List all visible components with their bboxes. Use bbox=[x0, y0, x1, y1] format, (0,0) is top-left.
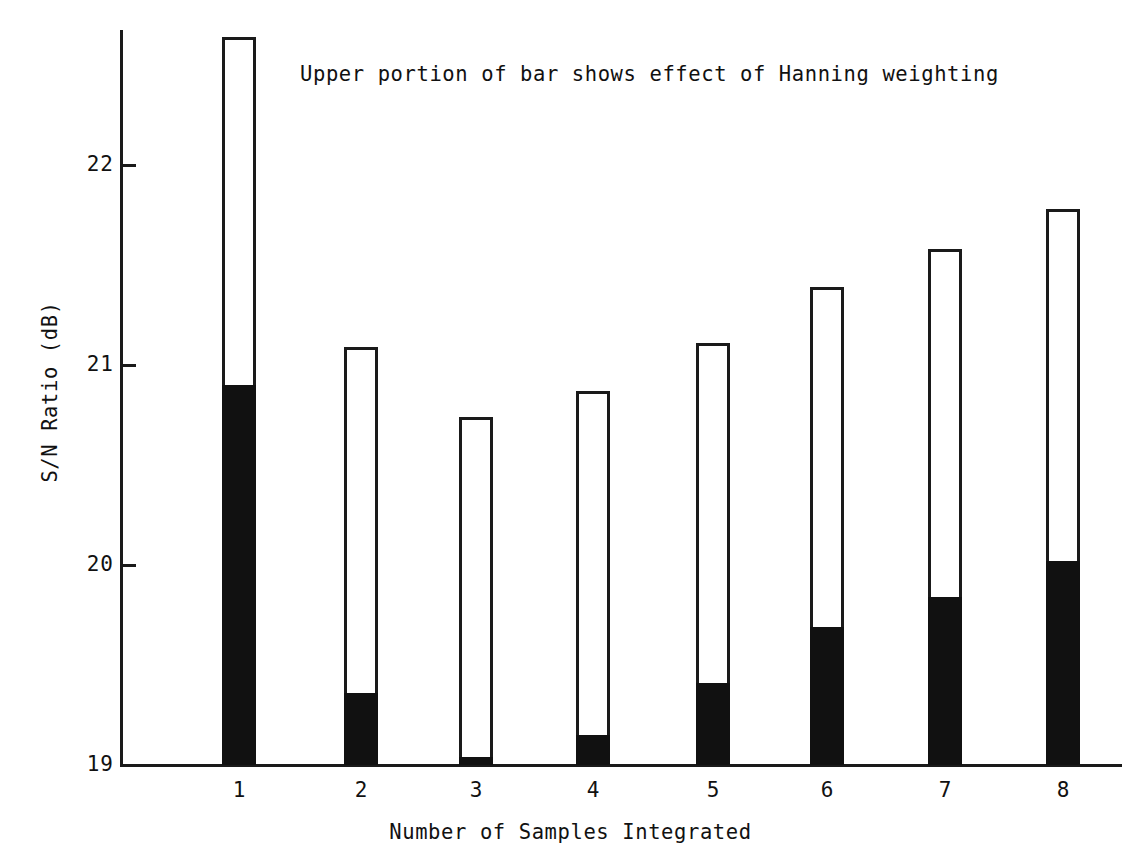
y-axis-line bbox=[120, 30, 123, 767]
y-axis-tick-label: 21 bbox=[54, 352, 114, 376]
bar-3 bbox=[459, 417, 493, 765]
bar-6 bbox=[810, 287, 844, 765]
x-axis-tick-label: 1 bbox=[209, 778, 269, 802]
x-axis-line bbox=[120, 764, 1122, 767]
bar-2 bbox=[344, 347, 378, 765]
bar-4 bbox=[576, 391, 610, 765]
x-axis-tick-label: 5 bbox=[683, 778, 743, 802]
y-axis-tick bbox=[123, 164, 136, 167]
x-axis-tick-label: 7 bbox=[915, 778, 975, 802]
bar-fill-7 bbox=[928, 597, 962, 765]
y-axis-tick bbox=[123, 364, 136, 367]
bar-fill-1 bbox=[222, 385, 256, 765]
bar-fill-4 bbox=[576, 735, 610, 765]
x-axis-title: Number of Samples Integrated bbox=[0, 820, 1141, 844]
bar-fill-5 bbox=[696, 683, 730, 765]
y-axis-title: S/N Ratio (dB) bbox=[38, 242, 62, 542]
bar-5 bbox=[696, 343, 730, 765]
bar-8 bbox=[1046, 209, 1080, 765]
x-axis-tick-label: 2 bbox=[331, 778, 391, 802]
x-axis-tick-label: 6 bbox=[797, 778, 857, 802]
chart-annotation: Upper portion of bar shows effect of Han… bbox=[300, 62, 999, 86]
y-axis-tick-label: 19 bbox=[54, 752, 114, 776]
y-axis-tick-label: 22 bbox=[54, 152, 114, 176]
bar-fill-3 bbox=[459, 757, 493, 765]
y-axis-tick bbox=[123, 564, 136, 567]
bar-fill-8 bbox=[1046, 561, 1080, 765]
bar-fill-2 bbox=[344, 693, 378, 765]
bar-fill-6 bbox=[810, 627, 844, 765]
bar-7 bbox=[928, 249, 962, 765]
x-axis-tick-label: 4 bbox=[563, 778, 623, 802]
y-axis-tick-label: 20 bbox=[54, 552, 114, 576]
bar-1 bbox=[222, 37, 256, 765]
chart-figure: Upper portion of bar shows effect of Han… bbox=[0, 0, 1141, 853]
x-axis-tick-label: 3 bbox=[446, 778, 506, 802]
x-axis-tick-label: 8 bbox=[1033, 778, 1093, 802]
